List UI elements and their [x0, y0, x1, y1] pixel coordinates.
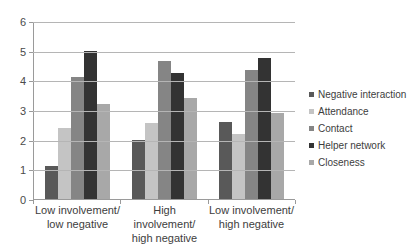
gridline: [33, 111, 295, 112]
y-tick-label: 6: [20, 17, 26, 28]
y-tick-mark: [29, 111, 33, 112]
bar[interactable]: [58, 128, 71, 199]
y-axis: 0123456: [0, 0, 30, 242]
bar[interactable]: [145, 123, 158, 199]
legend-swatch-icon: [309, 126, 314, 131]
bar[interactable]: [84, 51, 97, 199]
bar[interactable]: [97, 104, 110, 199]
x-category-label-line: high negative: [208, 217, 295, 231]
y-tick-label: 2: [20, 135, 26, 146]
y-tick-mark: [29, 81, 33, 82]
x-category-label-line: High involvement/: [121, 203, 208, 231]
gridline: [33, 81, 295, 82]
x-axis-line: [33, 199, 295, 200]
y-tick-mark: [29, 170, 33, 171]
gridline: [33, 22, 295, 23]
gridline: [33, 141, 295, 142]
x-category-label-line: Low involvement/: [208, 203, 295, 217]
legend-swatch-icon: [309, 143, 314, 148]
x-category-label-line: high negative: [121, 231, 208, 245]
plot-wrapper: 0123456 Low involvement/low negativeHigh…: [0, 0, 300, 242]
legend-label: Contact: [318, 124, 352, 134]
legend-item[interactable]: Negative interaction: [309, 86, 417, 103]
x-tick-mark: [295, 200, 296, 204]
bar[interactable]: [245, 70, 258, 199]
bar[interactable]: [232, 134, 245, 199]
legend-item[interactable]: Attendance: [309, 103, 417, 120]
gridline: [33, 52, 295, 53]
gridline: [33, 170, 295, 171]
legend-item[interactable]: Contact: [309, 120, 417, 137]
legend-label: Closeness: [318, 158, 365, 168]
legend-item[interactable]: Helper network: [309, 137, 417, 154]
y-tick-mark: [29, 52, 33, 53]
bar[interactable]: [271, 113, 284, 199]
y-tick-label: 3: [20, 106, 26, 117]
legend-label: Negative interaction: [318, 90, 406, 100]
x-category-label-line: low negative: [34, 217, 121, 231]
y-tick-label: 5: [20, 46, 26, 57]
bar[interactable]: [171, 73, 184, 199]
y-tick-mark: [29, 141, 33, 142]
bar[interactable]: [71, 77, 84, 199]
x-category-label: Low involvement/high negative: [208, 203, 295, 245]
y-tick-mark: [29, 22, 33, 23]
legend-swatch-icon: [309, 160, 314, 165]
x-category-label: High involvement/high negative: [121, 203, 208, 245]
x-category-label: Low involvement/low negative: [34, 203, 121, 245]
legend-label: Attendance: [318, 107, 369, 117]
bar[interactable]: [132, 140, 145, 199]
legend-item[interactable]: Closeness: [309, 154, 417, 171]
chart-legend: Negative interactionAttendanceContactHel…: [309, 86, 417, 171]
legend-swatch-icon: [309, 92, 314, 97]
x-category-label-line: Low involvement/: [34, 203, 121, 217]
bar[interactable]: [184, 98, 197, 199]
plot-area: [33, 22, 295, 200]
y-tick-label: 0: [20, 195, 26, 206]
bar[interactable]: [219, 122, 232, 199]
x-axis-labels: Low involvement/low negativeHigh involve…: [34, 203, 295, 245]
y-tick-label: 4: [20, 76, 26, 87]
bar[interactable]: [258, 58, 271, 199]
legend-label: Helper network: [318, 141, 385, 151]
legend-swatch-icon: [309, 109, 314, 114]
y-tick-label: 1: [20, 165, 26, 176]
